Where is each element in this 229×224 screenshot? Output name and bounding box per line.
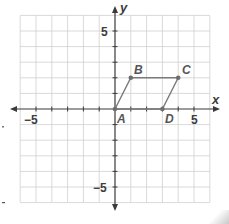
y-axis-label: y bbox=[119, 0, 128, 15]
axis-labels: x y −5 5 5 −5 bbox=[24, 0, 220, 195]
y-tick-label-neg5: −5 bbox=[93, 181, 107, 195]
point-a bbox=[113, 107, 118, 112]
point-b bbox=[129, 76, 134, 81]
x-axis-label: x bbox=[211, 92, 220, 107]
label-a: A bbox=[116, 112, 126, 126]
y-tick-label-pos5: 5 bbox=[101, 25, 108, 39]
y-axis-down-arrow-icon bbox=[112, 204, 118, 211]
point-labels: A B C D bbox=[116, 63, 191, 126]
x-axis-left-arrow-icon bbox=[10, 106, 17, 112]
point-c bbox=[176, 76, 181, 81]
margin-mark-2 bbox=[2, 202, 5, 203]
margin-mark-1 bbox=[2, 126, 4, 128]
label-c: C bbox=[182, 63, 191, 77]
coordinate-plane: x y −5 5 5 −5 A B C D bbox=[0, 0, 229, 224]
x-tick-label-pos5: 5 bbox=[191, 113, 198, 127]
x-tick-label-neg5: −5 bbox=[24, 113, 38, 127]
point-d bbox=[160, 107, 165, 112]
page-curl-shadow bbox=[199, 210, 229, 224]
label-d: D bbox=[165, 112, 174, 126]
label-b: B bbox=[134, 63, 143, 77]
y-axis-up-arrow-icon bbox=[112, 6, 118, 13]
